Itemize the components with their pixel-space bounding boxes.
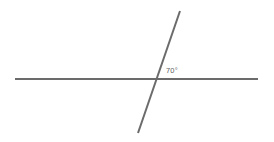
geometry-canvas: 70° [0,0,274,142]
angle-label: 70° [166,66,178,75]
geometry-figure: 70° [0,0,274,142]
